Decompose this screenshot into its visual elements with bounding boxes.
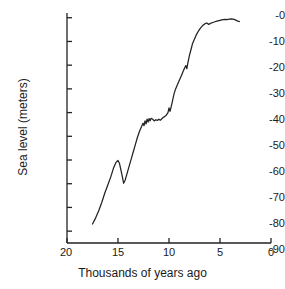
x-tick-marks	[67, 238, 271, 243]
plot-area	[0, 0, 285, 289]
y-tick-marks	[67, 18, 72, 231]
sea-level-chart: Sea level (meters) Thousands of years ag…	[0, 0, 285, 289]
sea-level-curve	[93, 19, 240, 224]
